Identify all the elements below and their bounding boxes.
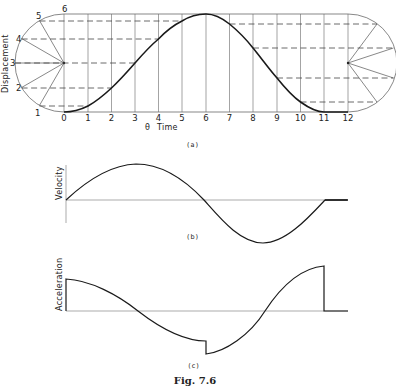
right-center-point xyxy=(347,62,349,64)
point-label-5: 5 xyxy=(36,11,41,21)
svg-text:8: 8 xyxy=(250,113,255,123)
acceleration-curve xyxy=(66,266,348,354)
svg-text:2: 2 xyxy=(109,113,114,123)
svg-text:0: 0 xyxy=(61,113,66,123)
velocity-axis-title: Velocity xyxy=(55,166,64,200)
svg-text:9: 9 xyxy=(274,113,279,123)
right-semicircle xyxy=(348,14,396,112)
acceleration-panel: Acceleration (c) xyxy=(55,258,348,370)
svg-text:3: 3 xyxy=(132,113,137,123)
svg-text:10: 10 xyxy=(295,113,306,123)
point-label-6: 6 xyxy=(62,4,67,14)
displacement-panel: 1 2 3 4 5 6 0 1 2 3 4 5 6 7 8 9 10 11 12… xyxy=(1,4,396,149)
svg-text:6: 6 xyxy=(203,113,208,123)
point-label-3: 3 xyxy=(10,58,15,68)
displacement-axis-title: Displacement xyxy=(1,34,10,93)
panel-b-label: (b) xyxy=(187,233,199,241)
svg-text:12: 12 xyxy=(343,113,354,123)
panel-c-label: (c) xyxy=(188,362,200,370)
velocity-curve xyxy=(66,164,347,243)
svg-text:1: 1 xyxy=(85,113,90,123)
cam-motion-figure: 1 2 3 4 5 6 0 1 2 3 4 5 6 7 8 9 10 11 12… xyxy=(0,0,396,387)
svg-text:4: 4 xyxy=(156,113,161,123)
svg-text:7: 7 xyxy=(227,113,232,123)
theta-symbol: θ xyxy=(145,123,150,132)
time-tick-labels: 0 1 2 3 4 5 6 7 8 9 10 11 12 xyxy=(61,113,353,123)
velocity-panel: Velocity (b) xyxy=(55,164,348,243)
acceleration-axis-title: Acceleration xyxy=(55,258,64,311)
time-axis-title: Time xyxy=(156,123,178,132)
point-label-1: 1 xyxy=(35,108,40,118)
svg-text:5: 5 xyxy=(179,113,184,123)
time-grid-lines xyxy=(64,14,348,112)
figure-caption: Fig. 7.6 xyxy=(174,375,216,386)
left-projection-dashes xyxy=(15,21,182,106)
point-label-2: 2 xyxy=(16,83,21,93)
panel-a-label: (a) xyxy=(187,141,199,149)
svg-text:11: 11 xyxy=(319,113,330,123)
right-construction-spokes xyxy=(348,24,394,102)
right-projection-dashes xyxy=(230,24,394,102)
point-label-4: 4 xyxy=(16,34,21,44)
